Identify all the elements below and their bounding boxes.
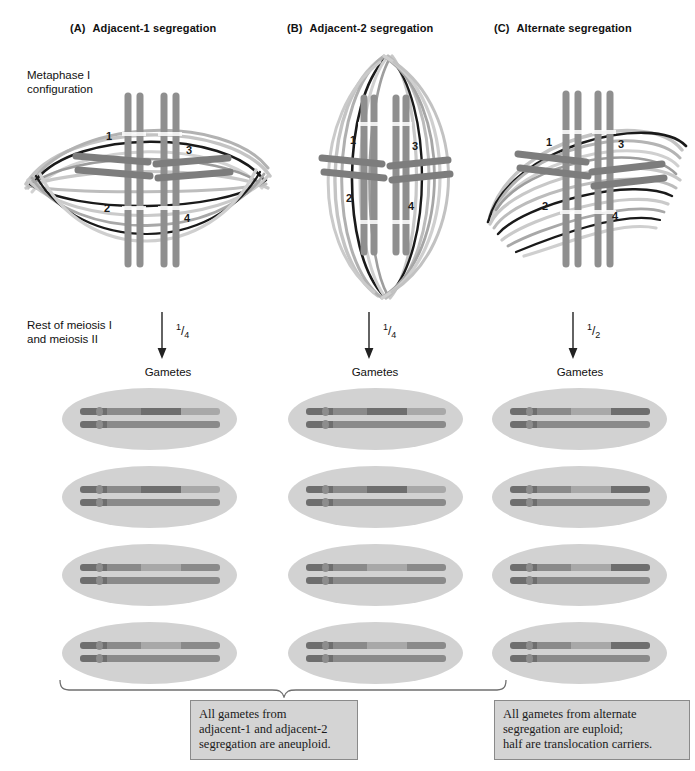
chromosome-number-4: 4 <box>612 210 619 222</box>
chromosome-segment <box>306 642 333 649</box>
chromosome-segment <box>537 408 571 415</box>
gamete-cell <box>492 622 667 684</box>
metaphase-figure-c: 1 3 2 4 <box>482 88 694 273</box>
chromosome-number-4: 4 <box>408 200 415 212</box>
meiosis-arrow-a <box>155 312 173 360</box>
gamete-cell <box>288 388 463 450</box>
chromosome-segment <box>611 408 650 415</box>
chromosome-segment <box>571 486 611 493</box>
chromosome-segment <box>181 499 220 506</box>
chromosome-segment <box>141 408 181 415</box>
centromere <box>322 654 329 663</box>
centromere <box>322 485 329 494</box>
chromosome-segment <box>80 564 107 571</box>
gamete-cell <box>62 466 237 528</box>
chromosome-segment <box>181 655 220 662</box>
panel-title-a: (A)Adjacent-1 segregation <box>70 22 216 34</box>
centromere <box>322 498 329 507</box>
centromere <box>526 563 533 572</box>
chromosome-segment <box>107 499 141 506</box>
chromosome-number-1: 1 <box>546 136 552 148</box>
chromosome-segment <box>537 655 571 662</box>
chromosome-segment <box>333 642 367 649</box>
chromosome-segment <box>407 408 446 415</box>
caption-euploid: All gametes from alternate segregation a… <box>494 700 690 760</box>
chromosome-segment <box>181 486 220 493</box>
chromosome-segment <box>571 642 611 649</box>
centromere <box>96 420 103 429</box>
fraction-a: 1/4 <box>176 322 189 340</box>
chromosome-segment <box>107 486 141 493</box>
chromosome-segment <box>510 408 537 415</box>
chromosome-segment <box>611 655 650 662</box>
chromosome-segment <box>333 577 367 584</box>
chromosome-segment <box>181 564 220 571</box>
chromosome-segment <box>306 421 333 428</box>
chromosome-segment <box>510 564 537 571</box>
panel-title-text-c: Alternate segregation <box>517 22 632 34</box>
chromosome-segment <box>510 486 537 493</box>
chromosome-number-2: 2 <box>346 192 352 204</box>
chromosome-segment <box>571 421 611 428</box>
centromere <box>526 576 533 585</box>
chromosome-segment <box>141 577 181 584</box>
chromosome-segment <box>107 421 141 428</box>
chromosome-segment <box>537 486 571 493</box>
chromosome-segment <box>367 577 407 584</box>
chromosome-segment <box>80 486 107 493</box>
chromosome-segment <box>141 486 181 493</box>
chromosome-segment <box>107 642 141 649</box>
chromosome-segment <box>367 421 407 428</box>
centromere <box>96 563 103 572</box>
chromosome-segment <box>141 564 181 571</box>
centromere <box>526 485 533 494</box>
chromosome-segment <box>306 499 333 506</box>
chromosome-number-2: 2 <box>104 202 110 214</box>
chromosome-segment <box>367 655 407 662</box>
fraction-b: 1/4 <box>383 322 396 340</box>
chromosome-segment <box>611 577 650 584</box>
centromere <box>96 407 103 416</box>
chromosome-segment <box>537 499 571 506</box>
centromere <box>526 420 533 429</box>
gametes-label-a: Gametes <box>108 366 228 378</box>
chromosome-segment <box>367 499 407 506</box>
chromosome-segment <box>181 642 220 649</box>
centromere <box>322 576 329 585</box>
gamete-cell <box>62 388 237 450</box>
chromosome-segment <box>571 499 611 506</box>
chromosome-segment <box>141 655 181 662</box>
chromosome-segment <box>537 577 571 584</box>
gamete-cell <box>492 544 667 606</box>
chromosome-segment <box>407 577 446 584</box>
chromosome-number-3: 3 <box>186 144 192 156</box>
chromosome-segment <box>306 655 333 662</box>
caption-aneuploid: All gametes from adjacent-1 and adjacent… <box>190 700 358 760</box>
chromosome-segment <box>510 642 537 649</box>
chromosome-segment <box>181 408 220 415</box>
chromosome-segment <box>306 486 333 493</box>
chromosome-segment <box>367 564 407 571</box>
chromosome-segment <box>333 564 367 571</box>
chromosome-segment <box>80 421 107 428</box>
chromosome-segment <box>333 655 367 662</box>
chromosome-segment <box>367 642 407 649</box>
fraction-c: 1/2 <box>587 322 600 340</box>
panel-title-c: (C)Alternate segregation <box>494 22 632 34</box>
centromere <box>96 576 103 585</box>
chromosome-segment <box>181 421 220 428</box>
gamete-cell <box>288 622 463 684</box>
panel-title-text-a: Adjacent-1 segregation <box>93 22 217 34</box>
gamete-cell <box>492 388 667 450</box>
chromosome-segment <box>141 421 181 428</box>
chromosome-segment <box>407 421 446 428</box>
chromosome-segment <box>141 642 181 649</box>
chromosome-segment <box>571 655 611 662</box>
gamete-cell <box>492 466 667 528</box>
chromosome-number-4: 4 <box>184 212 191 224</box>
chromosome-segment <box>80 408 107 415</box>
chromosome-segment <box>407 486 446 493</box>
metaphase-figure-a: 1 3 2 4 <box>14 88 282 273</box>
chromosome-segment <box>80 499 107 506</box>
centromere <box>322 563 329 572</box>
